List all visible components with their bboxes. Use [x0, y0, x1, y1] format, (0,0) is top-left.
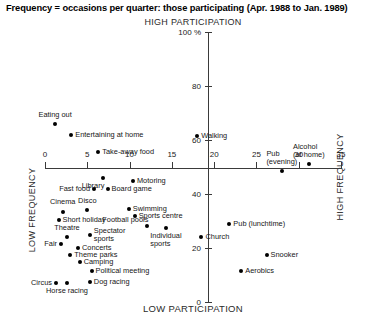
scatter-chart: Frequency = occasions per quarter: those…: [0, 0, 386, 319]
x-tick: [214, 162, 215, 169]
data-point: [68, 253, 72, 257]
x-tick-label: 5: [85, 150, 89, 159]
data-point-label: Individual sports: [150, 232, 181, 248]
data-point-label: Cinema: [50, 198, 75, 206]
data-point: [90, 269, 94, 273]
data-point: [96, 150, 100, 154]
y-tick: [205, 302, 212, 303]
data-point-label: Snooker: [271, 251, 299, 259]
data-point-label: Fast food: [59, 184, 90, 192]
data-point: [53, 122, 57, 126]
data-point: [57, 218, 61, 222]
right-axis-caption: HIGH FREQUENCY: [335, 133, 345, 220]
data-point: [92, 187, 96, 191]
data-point-label: Take-away food: [102, 148, 154, 156]
data-point-label: Entertaining at home: [75, 130, 143, 138]
data-point-label: Camping: [84, 257, 114, 265]
data-point: [164, 226, 168, 230]
data-point-label: Aerobics: [245, 267, 274, 275]
chart-title: Frequency = occasions per quarter: those…: [6, 3, 384, 13]
data-point-label: Church: [205, 233, 229, 241]
left-axis-caption: LOW FREQUENCY: [27, 168, 37, 253]
x-axis-line: [45, 168, 341, 169]
data-point: [65, 235, 69, 239]
data-point: [101, 176, 105, 180]
x-tick: [256, 162, 257, 169]
y-tick: [205, 248, 212, 249]
data-point-label: Football pools: [102, 216, 148, 224]
data-point-label: Fair: [44, 240, 57, 248]
data-point: [199, 235, 203, 239]
y-tick: [205, 194, 212, 195]
data-point: [54, 281, 58, 285]
y-tick: [205, 140, 212, 141]
x-tick: [172, 162, 173, 169]
data-point-label: Alcohol (at home): [293, 143, 325, 159]
y-tick: [205, 86, 212, 87]
x-tick: [87, 162, 88, 169]
data-point: [106, 187, 110, 191]
y-axis-line: [208, 32, 209, 303]
data-point: [85, 208, 89, 212]
data-point: [131, 179, 135, 183]
y-tick-label: 100 %: [168, 28, 201, 37]
x-tick: [130, 162, 131, 169]
x-tick: [45, 162, 46, 169]
data-point-label: Board game: [112, 184, 152, 192]
x-tick-label: 20: [210, 150, 219, 159]
data-point: [59, 242, 63, 246]
data-point-label: Eating out: [38, 111, 71, 119]
data-point: [65, 281, 69, 285]
x-tick: [341, 162, 342, 169]
x-tick-label: 15: [167, 150, 176, 159]
data-point: [69, 133, 73, 137]
top-axis-caption: HIGH PARTICIPATION: [0, 17, 386, 27]
data-point-label: Dog racing: [94, 278, 130, 286]
data-point-label: Pub (lunchtime): [233, 220, 285, 228]
data-point: [265, 253, 269, 257]
data-point-label: Spectator sports: [94, 226, 126, 242]
data-point: [88, 233, 92, 237]
data-point: [145, 224, 149, 228]
x-tick: [299, 162, 300, 169]
x-tick-label: 0: [43, 150, 47, 159]
data-point: [239, 269, 243, 273]
data-point: [227, 222, 231, 226]
y-tick-label: 80: [168, 82, 201, 91]
data-point-label: Theatre: [54, 224, 79, 232]
y-tick-label: 0: [168, 298, 201, 307]
data-point: [78, 260, 82, 264]
data-point: [127, 207, 131, 211]
data-point: [61, 210, 65, 214]
data-point: [280, 169, 284, 173]
y-tick-label: 40: [168, 190, 201, 199]
data-point: [307, 162, 311, 166]
x-tick-label: 25: [252, 150, 261, 159]
y-tick: [205, 32, 212, 33]
data-point-label: Walking: [201, 132, 227, 140]
x-tick-label: 35: [337, 150, 346, 159]
data-point-label: Horse racing: [46, 287, 88, 295]
data-point-label: Disco: [78, 197, 96, 205]
data-point-label: Political meeting: [96, 267, 150, 275]
data-point: [88, 280, 92, 284]
